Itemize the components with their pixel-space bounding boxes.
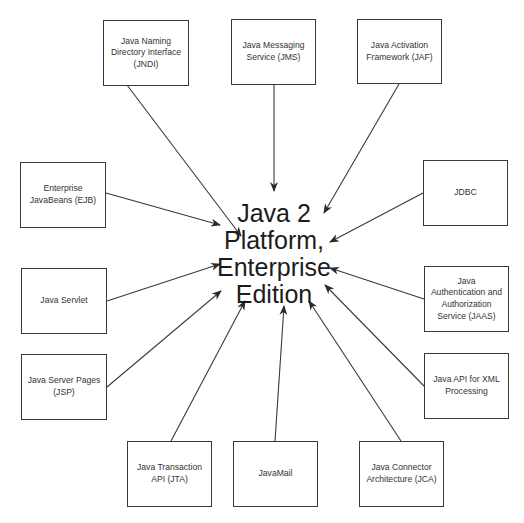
component-label: Java Servlet [40,295,87,307]
component-box-jndi: Java Naming Directory Interface (JNDI) [103,20,189,86]
component-label: Java Naming Directory Interface (JNDI) [111,36,181,71]
component-label: Java Server Pages (JSP) [28,375,101,398]
component-box-javamail: JavaMail [233,441,318,507]
component-box-jca: Java Connector Architecture (JCA) [359,441,444,507]
component-box-jsp: Java Server Pages (JSP) [21,354,107,420]
arrow-ejb-to-platform [106,193,220,225]
arrow-javamail-to-platform [275,306,284,441]
component-label: Java API for XML Processing [433,374,499,397]
center-platform-label: Java 2 Platform, Enterprise Edition [214,200,334,308]
component-label: Enterprise JavaBeans (EJB) [30,183,96,206]
arrow-jaxp-to-platform [325,285,424,386]
component-label: JDBC [454,187,476,199]
arrow-jdbc-to-platform [330,193,423,242]
component-label: Java Transaction API (JTA) [137,462,202,485]
component-box-jms: Java Messaging Service (JMS) [231,19,316,85]
component-label: JavaMail [259,468,293,480]
component-label: Java Authentication and Authorization Se… [431,276,502,322]
component-box-jdbc: JDBC [423,160,508,226]
component-box-ejb: Enterprise JavaBeans (EJB) [20,162,106,228]
arrow-jaas-to-platform [330,268,424,299]
arrow-jsp-to-platform [107,291,221,387]
component-box-jta: Java Transaction API (JTA) [127,441,212,507]
arrow-servlet-to-platform [107,264,220,301]
component-box-jaf: Java Activation Framework (JAF) [357,19,442,84]
component-box-servlet: Java Servlet [21,268,107,334]
component-box-jaas: Java Authentication and Authorization Se… [424,266,509,332]
component-box-jaxp: Java API for XML Processing [424,353,509,419]
arrow-jca-to-platform [309,301,401,441]
component-label: Java Connector Architecture (JCA) [366,462,436,485]
component-label: Java Activation Framework (JAF) [366,40,432,63]
arrow-jta-to-platform [171,301,245,441]
component-label: Java Messaging Service (JMS) [242,40,304,63]
arrow-jaf-to-platform [324,84,399,213]
